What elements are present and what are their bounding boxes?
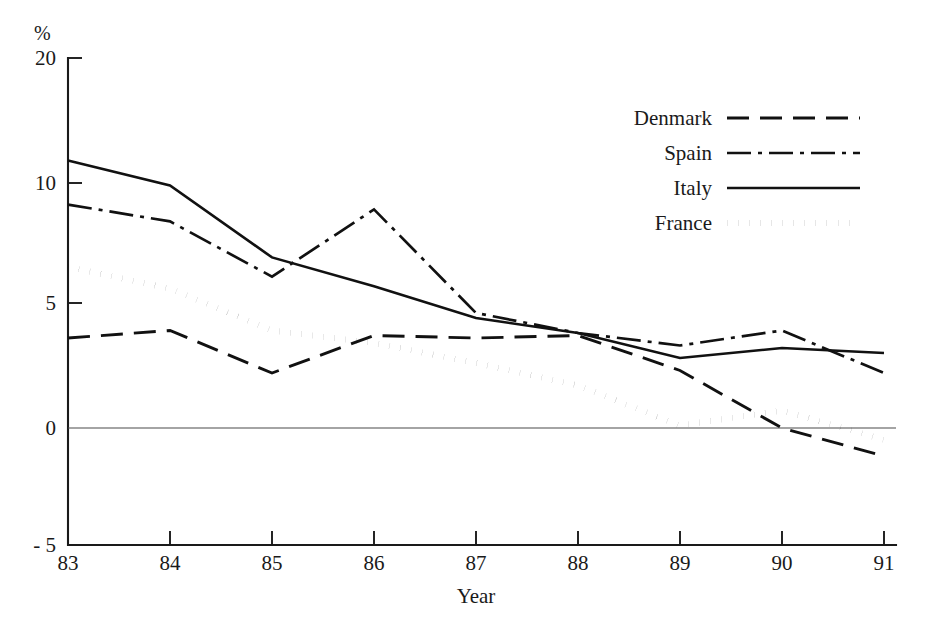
chart-container: 201050- 5%838485868788899091Year Denmark… (0, 0, 934, 624)
x-tick-label-87: 87 (466, 551, 487, 575)
y-tick-label--5: - 5 (33, 533, 56, 557)
y-axis-unit-label: % (34, 22, 51, 44)
chart-axes (68, 58, 896, 545)
x-tick-label-85: 85 (262, 551, 283, 575)
legend-label-spain: Spain (664, 141, 712, 165)
line-chart: 201050- 5%838485868788899091Year Denmark… (0, 0, 934, 624)
legend-label-france: France (655, 211, 712, 235)
series-line-france (68, 267, 884, 440)
series-lines (68, 161, 884, 457)
series-line-spain (68, 205, 884, 373)
x-tick-label-84: 84 (160, 551, 182, 575)
legend-label-denmark: Denmark (634, 106, 713, 130)
x-tick-label-89: 89 (670, 551, 691, 575)
y-tick-label-0: 0 (46, 416, 57, 440)
x-axis-title: Year (457, 584, 496, 608)
y-tick-label-10: 10 (35, 171, 56, 195)
x-tick-label-88: 88 (568, 551, 589, 575)
x-tick-label-86: 86 (364, 551, 385, 575)
x-tick-label-83: 83 (58, 551, 79, 575)
x-tick-label-91: 91 (874, 551, 895, 575)
legend-label-italy: Italy (674, 176, 713, 200)
tick-marks (68, 183, 884, 545)
y-tick-label-5: 5 (46, 291, 57, 315)
axis-group (68, 58, 896, 545)
series-line-italy (68, 161, 884, 359)
x-tick-label-90: 90 (772, 551, 793, 575)
chart-legend: DenmarkSpainItalyFrance (634, 106, 860, 235)
y-tick-label-20: 20 (35, 46, 56, 70)
